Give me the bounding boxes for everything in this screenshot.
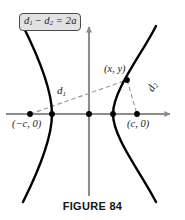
hyperbola-figure: d1 − d2 = 2a d1 d2 (x, y) (−c, 0) (c, 0)… (0, 0, 185, 220)
d1-label: d1 (57, 85, 66, 98)
focus-right-label: (c, 0) (127, 119, 149, 130)
equation-box: d1 − d2 = 2a (19, 13, 81, 31)
point-on-curve (124, 77, 130, 83)
hyperbola-diagram-canvas (0, 0, 185, 220)
focus-left-point (27, 111, 33, 117)
point-xy-label: (x, y) (104, 64, 126, 75)
equation-right-side: = 2a (53, 15, 76, 26)
focus-right-point (134, 111, 140, 117)
equation-minus: − (33, 15, 44, 26)
d1-subscript: 1 (63, 90, 67, 98)
figure-caption: FIGURE 84 (0, 200, 185, 212)
origin-point (86, 111, 92, 117)
vertex-right-point (110, 111, 116, 117)
focus-left-label: (−c, 0) (12, 119, 41, 130)
vertex-left-point (49, 111, 55, 117)
d2-segment (127, 80, 137, 114)
